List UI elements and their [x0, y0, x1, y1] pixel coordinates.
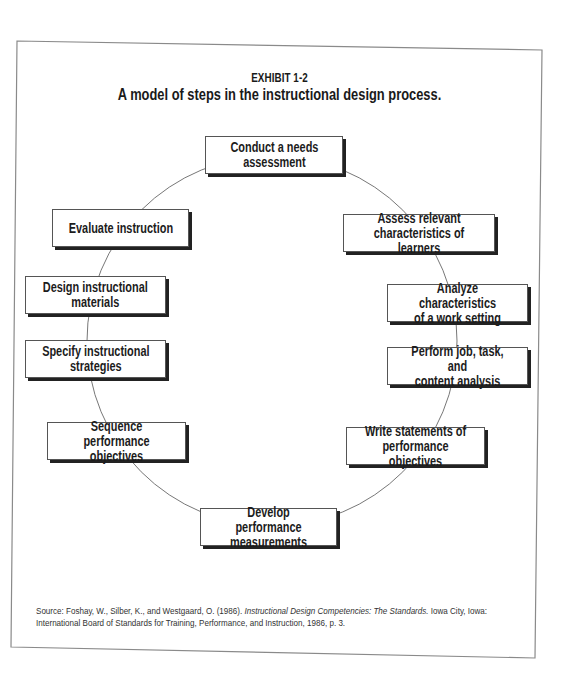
step-label: Develop performance measurements [216, 505, 321, 550]
source-line-1: Source: Foshay, W., Silber, K., and West… [36, 605, 490, 617]
step-analyze-work-setting: Analyze characteristics of a work settin… [387, 284, 528, 322]
step-sequence-performance-objectives: Sequence performance objectives [47, 422, 186, 460]
step-label: Specify instructional strategies [42, 344, 149, 374]
step-label: Sequence performance objectives [63, 419, 170, 464]
step-conduct-needs-assessment: Conduct a needs assessment [205, 136, 343, 174]
step-write-performance-objectives: Write statements of performance objectiv… [346, 427, 485, 465]
step-label: Evaluate instruction [68, 221, 172, 236]
exhibit-label: EXHIBIT 1-2 [64, 71, 495, 85]
step-label: Conduct a needs assessment [230, 140, 318, 170]
step-specify-instructional-strategies: Specify instructional strategies [25, 340, 166, 378]
step-label: Assess relevant characteristics of learn… [361, 211, 478, 256]
step-label: Perform job, task, and content analysis [403, 344, 511, 389]
source-book-title: Instructional Design Competencies: The S… [244, 605, 428, 616]
source-line-2: International Board of Standards for Tra… [36, 617, 490, 629]
step-assess-learner-characteristics: Assess relevant characteristics of learn… [343, 214, 495, 252]
step-perform-job-task-analysis: Perform job, task, and content analysis [387, 347, 528, 385]
step-develop-performance-measurements: Develop performance measurements [200, 508, 337, 546]
source-citation: Source: Foshay, W., Silber, K., and West… [36, 605, 490, 629]
step-label: Design instructional materials [43, 280, 148, 310]
step-label: Write statements of performance objectiv… [362, 424, 469, 469]
exhibit-title: A model of steps in the instructional de… [75, 85, 485, 104]
step-evaluate-instruction: Evaluate instruction [52, 209, 189, 247]
step-design-instructional-materials: Design instructional materials [25, 276, 166, 314]
step-label: Analyze characteristics of a work settin… [403, 281, 511, 326]
